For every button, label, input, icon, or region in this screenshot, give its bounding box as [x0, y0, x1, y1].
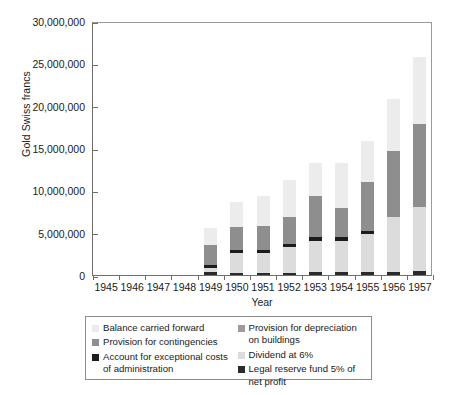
- x-tick-mark: [407, 275, 408, 280]
- y-tick-mark: [93, 23, 98, 24]
- bar-segment: [257, 196, 270, 226]
- bar-segment: [309, 241, 322, 272]
- bar-segment: [283, 180, 296, 217]
- legend-label: Dividend at 6%: [249, 349, 314, 361]
- bar-segment: [335, 272, 348, 275]
- x-tick-mark: [93, 275, 94, 280]
- x-tick-mark: [302, 275, 303, 280]
- chart-figure: Gold Swiss francs 05,000,00010,000,00015…: [0, 0, 455, 310]
- legend-item: Provision for contingencies: [92, 336, 229, 348]
- legend-swatch: [92, 339, 99, 346]
- x-tick-mark: [198, 275, 199, 280]
- bar-segment: [335, 208, 348, 237]
- x-tick-label: 1945: [94, 281, 117, 293]
- x-tick-label: 1953: [304, 281, 327, 293]
- x-tick-label: 1949: [199, 281, 222, 293]
- bar-segment: [413, 207, 426, 271]
- x-tick-mark: [250, 275, 251, 280]
- legend-swatch: [238, 366, 245, 373]
- legend-label: Balance carried forward: [103, 322, 204, 334]
- bar-segment: [387, 99, 400, 151]
- x-tick-mark: [433, 275, 434, 280]
- x-tick-mark: [145, 275, 146, 280]
- legend-item: Legal reserve fund 5% of net profit: [238, 363, 366, 388]
- legend-item: Dividend at 6%: [238, 349, 366, 361]
- bar-segment: [335, 237, 348, 241]
- bar-segment: [309, 163, 322, 196]
- bar-segment: [204, 268, 217, 272]
- y-tick-mark: [93, 234, 98, 235]
- legend-item: Balance carried forward: [92, 322, 229, 334]
- bar-segment: [230, 227, 243, 250]
- bar-stack: [309, 163, 322, 275]
- x-tick-mark: [381, 275, 382, 280]
- x-tick-label: 1957: [408, 281, 431, 293]
- x-tick-label: 1955: [356, 281, 379, 293]
- y-tick-label: 25,000,000: [32, 58, 85, 70]
- x-tick-mark: [224, 275, 225, 280]
- x-tick-mark: [171, 275, 172, 280]
- legend-column-left: Balance carried forwardProvision for con…: [92, 322, 229, 375]
- bar-stack: [204, 228, 217, 275]
- y-tick-mark: [93, 65, 98, 66]
- bar-segment: [413, 124, 426, 207]
- bar-segment: [204, 245, 217, 265]
- x-tick-mark: [355, 275, 356, 280]
- bar-stack: [361, 141, 374, 275]
- bar-stack: [413, 57, 426, 275]
- bar-segment: [230, 253, 243, 272]
- legend-swatch: [92, 325, 99, 332]
- x-tick-mark: [119, 275, 120, 280]
- y-tick-mark: [93, 107, 98, 108]
- x-tick-mark: [328, 275, 329, 280]
- bar-segment: [257, 226, 270, 250]
- bar-segment: [230, 202, 243, 227]
- y-tick-mark: [93, 192, 98, 193]
- x-tick-mark: [276, 275, 277, 280]
- x-tick-label: 1948: [173, 281, 196, 293]
- bar-segment: [283, 217, 296, 244]
- legend-item: Account for exceptional costs of adminis…: [92, 351, 229, 376]
- y-tick-label: 10,000,000: [32, 185, 85, 197]
- bar-segment: [387, 272, 400, 275]
- bar-segment: [204, 265, 217, 268]
- legend-label: Account for exceptional costs of adminis…: [103, 351, 229, 376]
- bar-segment: [283, 244, 296, 247]
- bar-segment: [257, 253, 270, 272]
- bar-segment: [309, 237, 322, 241]
- y-axis-title: Gold Swiss francs: [20, 44, 32, 184]
- bar-segment: [361, 141, 374, 182]
- y-tick-mark: [93, 150, 98, 151]
- legend-label: Provision for contingencies: [103, 336, 218, 348]
- y-tick-label: 30,000,000: [32, 16, 85, 28]
- bar-stack: [257, 196, 270, 275]
- legend-column-right: Provision for depreciation on buildingsD…: [229, 322, 366, 375]
- x-tick-label: 1952: [277, 281, 300, 293]
- y-tick-label: 0: [79, 270, 85, 282]
- bar-stack: [335, 163, 348, 275]
- x-tick-label: 1946: [121, 281, 144, 293]
- bar-segment: [309, 272, 322, 275]
- bar-stack: [283, 180, 296, 275]
- bar-stack: [387, 99, 400, 275]
- bar-segment: [361, 234, 374, 272]
- bar-segment: [335, 163, 348, 208]
- y-tick-label: 20,000,000: [32, 101, 85, 113]
- bar-segment: [283, 273, 296, 275]
- legend-label: Provision for depreciation on buildings: [249, 322, 366, 347]
- bar-segment: [361, 272, 374, 275]
- bar-segment: [387, 217, 400, 271]
- bar-segment: [309, 196, 322, 237]
- legend-swatch: [238, 352, 245, 359]
- bar-segment: [413, 57, 426, 124]
- bar-segment: [361, 182, 374, 230]
- y-tick-label: 5,000,000: [38, 228, 85, 240]
- bar-segment: [204, 272, 217, 275]
- bar-segment: [204, 228, 217, 244]
- chart-legend: Balance carried forwardProvision for con…: [85, 316, 372, 380]
- x-axis-title: Year: [92, 296, 432, 308]
- bar-segment: [230, 273, 243, 275]
- bar-segment: [335, 241, 348, 272]
- plot-area: 05,000,00010,000,00015,000,00020,000,000…: [92, 22, 432, 276]
- bar-segment: [413, 271, 426, 275]
